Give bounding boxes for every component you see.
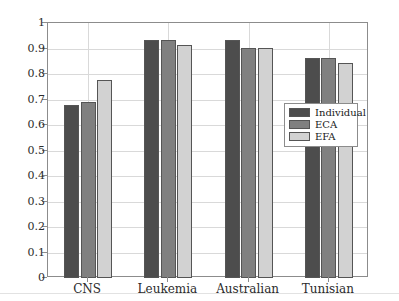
legend-item-eca[interactable]: ECA (289, 119, 353, 130)
bar-tunisian-individual (305, 58, 320, 278)
legend-item-efa[interactable]: EFA (289, 131, 353, 142)
y-axis-tick-label: 0.1 (5, 247, 45, 258)
y-axis-tick-label: 0 (5, 272, 45, 283)
y-axis-tick-label: 0.8 (5, 68, 45, 79)
y-axis-tick-label: 0.5 (5, 145, 45, 156)
bar-leukemia-individual (144, 40, 159, 278)
legend-swatch-eca (289, 120, 310, 129)
legend-label: ECA (315, 120, 337, 130)
bar-cns-eca (81, 102, 96, 278)
bar-cns-individual (64, 105, 79, 278)
bar-cns-efa (97, 80, 112, 278)
y-axis-tick-label: 0.3 (5, 196, 45, 207)
y-axis-tick-label: 0.6 (5, 119, 45, 130)
bar-australian-eca (241, 48, 256, 278)
gridline-horizontal (48, 49, 367, 50)
x-axis-tick-label-tunisian: Tunisian (273, 283, 383, 296)
legend-label: Individual (315, 108, 366, 118)
y-axis-tick-label: 0.7 (5, 94, 45, 105)
legend[interactable]: IndividualECAEFA (284, 103, 358, 147)
figure-bottom-rule (0, 293, 399, 294)
bar-tunisian-eca (321, 58, 336, 278)
bar-leukemia-efa (177, 45, 192, 278)
y-axis-tick-label: 0.9 (5, 43, 45, 54)
legend-item-individual[interactable]: Individual (289, 107, 353, 118)
bar-australian-efa (258, 48, 273, 278)
bar-australian-individual (225, 40, 240, 278)
y-axis-tick-label: 1 (5, 17, 45, 28)
bar-tunisian-efa (338, 63, 353, 278)
bar-leukemia-eca (161, 40, 176, 278)
legend-swatch-efa (289, 132, 310, 141)
plot-area (47, 22, 368, 277)
y-axis-tick-label: 0.2 (5, 221, 45, 232)
bar-chart-figure: 00.10.20.30.40.50.60.70.80.91 CNSLeukemi… (0, 0, 399, 301)
y-axis-tick-label: 0.4 (5, 170, 45, 181)
legend-label: EFA (315, 132, 336, 142)
legend-swatch-individual (289, 108, 310, 117)
